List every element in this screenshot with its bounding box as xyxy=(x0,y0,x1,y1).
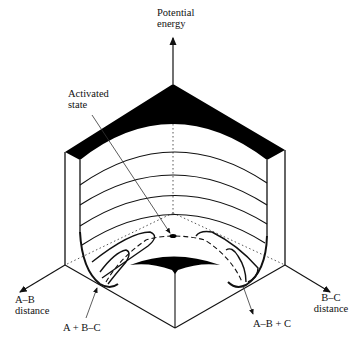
bc-distance-label: B–C distance xyxy=(305,292,357,314)
potential-energy-surface-diagram: Potential energy Activated state A–B dis… xyxy=(0,0,364,346)
ab-distance-label-line2: distance xyxy=(15,305,49,316)
bc-distance-label-line2: distance xyxy=(305,303,357,314)
energy-contours xyxy=(80,152,267,245)
energy-axis-label-line2: energy xyxy=(157,18,194,29)
energy-axis-label: Potential energy xyxy=(157,7,194,29)
left-valley-contours xyxy=(92,232,155,284)
right-valley-contours xyxy=(196,232,258,283)
ab-distance-label: A–B distance xyxy=(15,294,49,316)
base-edge-left xyxy=(65,265,175,328)
reactants-pointer xyxy=(86,288,97,318)
bc-distance-label-line1: B–C xyxy=(305,292,357,303)
products-label: A–B + C xyxy=(253,318,291,329)
activated-state-point xyxy=(170,234,177,238)
saddle-ridge xyxy=(130,257,220,275)
ab-distance-label-line1: A–B xyxy=(15,294,49,305)
activated-state-label-line1: Activated xyxy=(68,88,109,99)
products-pointer xyxy=(243,286,253,314)
bc-distance-axis xyxy=(285,265,330,292)
reactants-label: A + B–C xyxy=(63,322,100,333)
activated-state-label-line2: state xyxy=(68,99,109,110)
activated-state-label: Activated state xyxy=(68,88,109,110)
energy-axis-label-line1: Potential xyxy=(157,7,194,18)
activated-state-pointer xyxy=(92,115,170,233)
ab-distance-axis xyxy=(20,265,65,292)
